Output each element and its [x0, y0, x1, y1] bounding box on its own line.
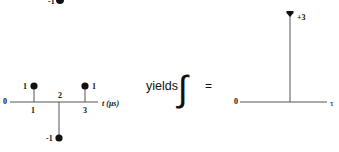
integral-symbol: ∫: [176, 68, 190, 109]
impulse-dot: [55, 134, 62, 141]
tick-label: 2: [58, 91, 62, 100]
left-axis-label: t (μs): [102, 99, 119, 108]
impulse-dot: [56, 0, 64, 4]
impulse-t1: 1 1: [23, 82, 38, 115]
impulse-dot: [30, 82, 37, 89]
left-plot: 0 t (μs) 1 1 -1 2 1 3: [3, 82, 119, 143]
tick-label: 1: [31, 106, 35, 115]
impulse-t3: 1 3: [81, 82, 96, 115]
right-plot: 0 τ +3: [234, 11, 334, 108]
diagram-canvas: -1 0 t (μs) 1 1 -1 2 1 3 yields ∫: [0, 0, 339, 152]
operator: yields ∫ =: [146, 68, 212, 109]
impulse-value-label: 1: [92, 82, 96, 91]
impulse-value-label: +3: [297, 13, 306, 22]
equals-sign: =: [205, 79, 212, 93]
impulse-arrowhead: [287, 11, 294, 17]
impulse-value-label: 1: [23, 82, 27, 91]
yields-word: yields: [146, 79, 178, 93]
top-partial-impulse: -1: [48, 0, 64, 6]
right-origin-label: 0: [234, 97, 238, 106]
impulse-plus3: +3: [287, 11, 306, 102]
impulse-t2: -1 2: [46, 91, 63, 143]
right-axis-label: τ: [330, 98, 334, 108]
tick-label: 3: [83, 106, 87, 115]
left-origin-label: 0: [3, 97, 7, 106]
impulse-dot: [81, 82, 88, 89]
top-partial-label: -1: [48, 0, 55, 6]
impulse-value-label: -1: [46, 134, 53, 143]
